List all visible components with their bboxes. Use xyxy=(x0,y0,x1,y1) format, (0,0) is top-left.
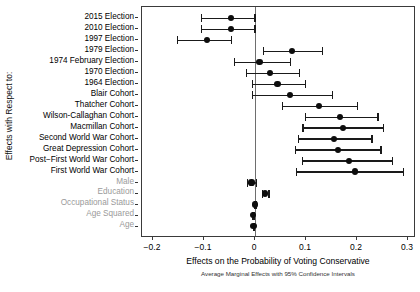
y-axis-tick-mark xyxy=(135,204,138,205)
point-estimate-marker xyxy=(337,114,343,120)
ci-upper-cap xyxy=(357,102,358,110)
ci-lower-cap xyxy=(252,80,253,88)
y-axis-tick-mark xyxy=(135,182,138,183)
ci-upper-cap xyxy=(377,113,378,121)
estimate-row xyxy=(142,199,414,210)
point-estimate-marker xyxy=(248,179,254,185)
ci-upper-cap xyxy=(256,179,257,187)
ci-upper-cap xyxy=(392,157,393,165)
ci-lower-cap xyxy=(234,58,235,66)
ci-upper-cap xyxy=(322,47,323,55)
ci-upper-cap xyxy=(254,25,255,33)
confidence-interval-bar xyxy=(296,171,403,172)
y-axis-tick-label: Thatcher Cohort xyxy=(75,101,134,109)
point-estimate-marker xyxy=(352,168,358,174)
coefficient-plot-figure: Effects with Respect to: 2015 Election20… xyxy=(0,0,420,292)
y-axis-tick-mark xyxy=(135,28,138,29)
y-axis-title-text: Effects with Respect to: xyxy=(4,72,14,161)
ci-upper-cap xyxy=(299,69,300,77)
y-axis-tick-label: 2010 Election xyxy=(84,24,134,32)
ci-lower-cap xyxy=(263,47,264,55)
y-axis-tick-label: 1979 Election xyxy=(84,46,134,54)
estimate-row xyxy=(142,101,414,112)
estimate-row xyxy=(142,68,414,79)
y-axis-tick-label: First World War Cohort xyxy=(51,167,134,175)
point-estimate-marker xyxy=(316,103,322,109)
y-axis-tick-mark xyxy=(135,105,138,106)
x-axis: Effects on the Probability of Voting Con… xyxy=(141,236,415,292)
y-axis-tick-label: Male xyxy=(116,178,134,186)
x-axis-tick-mark xyxy=(254,236,255,240)
ci-upper-cap xyxy=(380,146,381,154)
x-axis-tick-label: −0.1 xyxy=(195,242,212,252)
x-axis-tick-mark xyxy=(152,236,153,240)
point-estimate-marker xyxy=(331,136,337,142)
x-axis-tick-mark xyxy=(356,236,357,240)
ci-lower-cap xyxy=(302,124,303,132)
ci-lower-cap xyxy=(295,146,296,154)
estimate-row xyxy=(142,122,414,133)
ci-upper-cap xyxy=(332,91,333,99)
y-axis-tick-label: Great Depression Cohort xyxy=(43,145,134,153)
point-estimate-marker xyxy=(262,190,268,196)
ci-upper-cap xyxy=(305,80,306,88)
estimate-row xyxy=(142,144,414,155)
y-axis-tick-mark xyxy=(135,94,138,95)
x-axis-tick-label: 0.1 xyxy=(299,242,311,252)
point-estimate-marker xyxy=(340,125,346,131)
ci-lower-cap xyxy=(201,14,202,22)
x-axis-tick-label: 0.3 xyxy=(401,242,413,252)
point-estimate-marker xyxy=(256,59,262,65)
ci-upper-cap xyxy=(371,135,372,143)
ci-lower-cap xyxy=(298,135,299,143)
estimate-row xyxy=(142,188,414,199)
ci-lower-cap xyxy=(305,113,306,121)
estimate-row xyxy=(142,35,414,46)
y-axis-tick-mark xyxy=(135,149,138,150)
estimate-row xyxy=(142,46,414,57)
estimate-row xyxy=(142,24,414,35)
y-axis-tick-mark xyxy=(135,72,138,73)
x-axis-tick-mark xyxy=(407,236,408,240)
x-axis-tick-label: 0 xyxy=(252,242,257,252)
y-axis-tick-label: Age xyxy=(119,221,134,229)
y-axis-tick-mark xyxy=(135,39,138,40)
y-axis-tick-mark xyxy=(135,193,138,194)
y-axis-tick-label: Macmillan Cohort xyxy=(70,123,134,131)
x-axis-tick-label: 0.2 xyxy=(350,242,362,252)
estimate-row xyxy=(142,90,414,101)
ci-upper-cap xyxy=(254,14,255,22)
ci-upper-cap xyxy=(383,124,384,132)
y-axis-tick-mark xyxy=(135,215,138,216)
y-axis-tick-label: Post−First World War Cohort xyxy=(30,156,134,164)
ci-lower-cap xyxy=(246,69,247,77)
point-estimate-marker xyxy=(287,92,293,98)
x-axis-tick-mark xyxy=(203,236,204,240)
point-estimate-marker xyxy=(228,15,234,21)
y-axis-tick-mark xyxy=(135,50,138,51)
ci-lower-cap xyxy=(252,91,253,99)
ci-upper-cap xyxy=(268,190,269,198)
ci-upper-cap xyxy=(403,168,404,176)
y-axis-tick-mark xyxy=(135,83,138,84)
y-axis-tick-mark xyxy=(135,226,138,227)
plot-panel xyxy=(141,6,415,236)
y-axis-tick-label: 2015 Election xyxy=(84,13,134,21)
y-axis-tick-label: 1964 Election xyxy=(84,79,134,87)
estimate-row xyxy=(142,133,414,144)
y-axis-tick-mark xyxy=(135,138,138,139)
x-axis-line xyxy=(141,236,415,237)
point-estimate-marker xyxy=(335,147,341,153)
estimate-row xyxy=(142,221,414,232)
point-estimate-marker xyxy=(228,26,234,32)
ci-lower-cap xyxy=(296,168,297,176)
y-axis-tick-mark xyxy=(135,116,138,117)
ci-lower-cap xyxy=(201,25,202,33)
x-axis-title: Effects on the Probability of Voting Con… xyxy=(141,256,415,266)
x-axis-tick-label: −0.2 xyxy=(144,242,161,252)
y-axis-tick-label: Education xyxy=(98,188,134,196)
estimate-row xyxy=(142,79,414,90)
y-axis-tick-mark xyxy=(135,171,138,172)
point-estimate-marker xyxy=(204,37,210,43)
estimate-row xyxy=(142,210,414,221)
